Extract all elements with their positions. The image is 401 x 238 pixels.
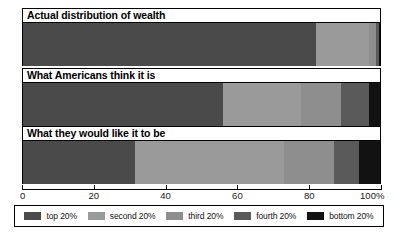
- legend-swatch-icon: [88, 212, 105, 220]
- legend-label: fourth 20%: [256, 211, 296, 221]
- wealth-distribution-chart: Actual distribution of wealthWhat Americ…: [0, 0, 401, 238]
- legend-swatch-icon: [24, 212, 41, 220]
- bar-segment: [284, 141, 334, 184]
- legend-item[interactable]: bottom 20%: [307, 211, 373, 221]
- bar-group: Actual distribution of wealth: [22, 8, 381, 66]
- x-axis-tick: [309, 185, 310, 189]
- bar-segment: [135, 141, 283, 184]
- bar-segment: [379, 23, 380, 66]
- bar-segment: [23, 83, 223, 126]
- x-axis-tick-label: 100%: [360, 190, 384, 201]
- plot-area: Actual distribution of wealthWhat Americ…: [22, 8, 381, 189]
- bar-segment: [369, 23, 376, 66]
- legend-label: second 20%: [110, 211, 156, 221]
- bar-segment: [316, 23, 370, 66]
- legend-item[interactable]: second 20%: [88, 211, 156, 221]
- bar-group: What they would like it to be: [22, 126, 381, 184]
- bar-segment: [223, 83, 302, 126]
- bar-segment: [341, 83, 370, 126]
- legend-label: third 20%: [188, 211, 223, 221]
- bar-title: What they would like it to be: [22, 126, 381, 141]
- x-axis-tick-label: 20: [89, 190, 100, 201]
- x-axis-tick: [94, 185, 95, 189]
- x-axis-tick-label: 80: [304, 190, 315, 201]
- x-axis-tick-label: 0: [20, 190, 25, 201]
- x-axis-tick-label: 60: [232, 190, 243, 201]
- x-axis-tick: [22, 185, 23, 189]
- legend-swatch-icon: [166, 212, 183, 220]
- bar-group: What Americans think it is: [22, 68, 381, 126]
- stacked-bar: [22, 23, 381, 66]
- legend-item[interactable]: top 20%: [24, 211, 77, 221]
- bar-segment: [23, 23, 316, 66]
- stacked-bar: [22, 83, 381, 126]
- x-axis-tick: [166, 185, 167, 189]
- x-axis-tick: [237, 185, 238, 189]
- bar-title: What Americans think it is: [22, 68, 381, 83]
- bar-segment: [359, 141, 380, 184]
- legend-swatch-icon: [234, 212, 251, 220]
- x-axis-tick: [381, 185, 382, 189]
- bar-segment: [301, 83, 340, 126]
- bar-title: Actual distribution of wealth: [22, 8, 381, 23]
- legend-item[interactable]: third 20%: [166, 211, 223, 221]
- bar-segment: [334, 141, 359, 184]
- legend-label: top 20%: [46, 211, 77, 221]
- legend-item[interactable]: fourth 20%: [234, 211, 296, 221]
- bar-segment: [369, 83, 380, 126]
- bar-segment: [23, 141, 135, 184]
- x-axis-tick-label: 40: [160, 190, 171, 201]
- x-axis-line: [22, 189, 382, 190]
- chart-legend: top 20%second 20%third 20%fourth 20%bott…: [14, 205, 384, 227]
- legend-label: bottom 20%: [329, 211, 373, 221]
- stacked-bar: [22, 141, 381, 184]
- legend-swatch-icon: [307, 212, 324, 220]
